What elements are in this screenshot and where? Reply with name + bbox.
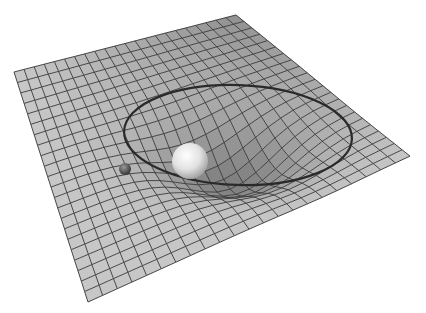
curved-grid-figure xyxy=(0,0,426,313)
spacetime-diagram xyxy=(0,0,426,313)
small-mass-sphere xyxy=(119,163,131,175)
large-mass-sphere xyxy=(172,143,208,179)
